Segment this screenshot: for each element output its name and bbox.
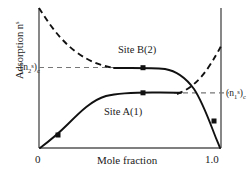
- n2s-trail: c: [37, 67, 40, 74]
- x-tick-label-right: 1.0: [205, 153, 219, 165]
- y-axis-title-superscript: s: [13, 21, 20, 24]
- site-a-solid-curve: [40, 92, 181, 148]
- x-tick-label-left: 0: [35, 153, 41, 165]
- adsorption-chart-figure: Adsorption ns (n2s)c (n1s)c: [0, 0, 251, 171]
- site-b-annotation: Site B(2): [118, 44, 157, 56]
- total-dashed-branch: [177, 46, 221, 94]
- n1s-label: (n1s)c: [226, 88, 246, 100]
- marker-site-a-plateau: [141, 90, 146, 95]
- chart-svg: (n2s)c (n1s)c Site B(2) Site A(1) 0 1.0 …: [0, 0, 251, 171]
- site-a-annotation: Site A(1): [104, 106, 143, 118]
- site-b-dashed-branch: [39, 8, 116, 68]
- y-axis-title: Adsorption ns: [13, 2, 26, 98]
- y-axis-title-text: Adsorption n: [14, 24, 25, 79]
- marker-site-a-low: [56, 133, 61, 138]
- n1s-trail: c: [243, 93, 246, 100]
- marker-site-b-plateau: [141, 65, 146, 70]
- x-axis-title: Mole fraction: [97, 154, 158, 166]
- marker-site-b-descent: [212, 119, 217, 124]
